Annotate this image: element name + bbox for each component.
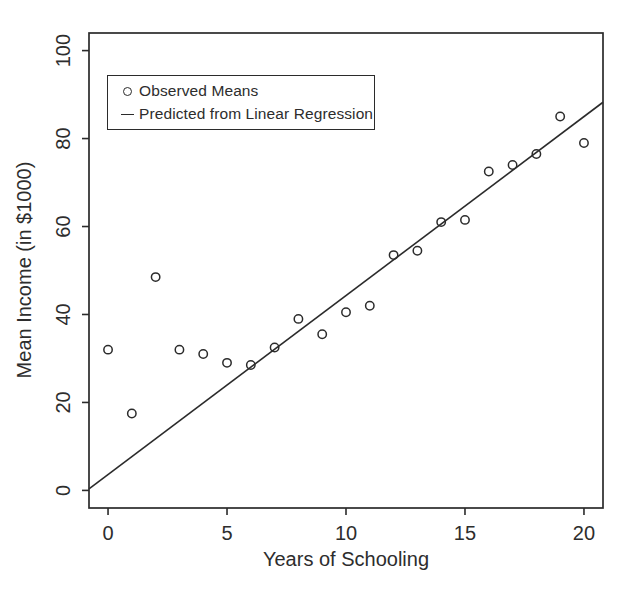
regression-line — [89, 102, 603, 489]
y-axis-title: Mean Income (in $1000) — [13, 162, 35, 379]
data-point — [223, 359, 231, 367]
data-point — [461, 216, 469, 224]
data-point — [151, 273, 159, 281]
data-point — [556, 112, 564, 120]
legend-marker-cell — [115, 87, 139, 96]
open-circle-marker-icon — [123, 87, 132, 96]
legend-marker-cell — [115, 114, 139, 115]
y-tick-label: 60 — [52, 215, 74, 237]
legend-box: Observed Means Predicted from Linear Reg… — [107, 75, 375, 130]
x-tick-label: 0 — [102, 522, 113, 544]
x-tick-label: 10 — [335, 522, 357, 544]
legend-item-predicted: Predicted from Linear Regression — [115, 104, 374, 125]
data-point — [342, 308, 350, 316]
x-tick-label: 15 — [454, 522, 476, 544]
x-axis-title: Years of Schooling — [263, 548, 429, 570]
legend-item-observed: Observed Means — [115, 81, 374, 102]
y-tick-label: 20 — [52, 391, 74, 413]
x-tick-label: 20 — [573, 522, 595, 544]
x-tick-label: 5 — [221, 522, 232, 544]
y-tick-label: 0 — [52, 485, 74, 496]
data-point — [175, 345, 183, 353]
y-tick-label: 100 — [52, 34, 74, 67]
data-point — [413, 247, 421, 255]
data-point — [294, 315, 302, 323]
data-point — [199, 350, 207, 358]
legend-label-observed: Observed Means — [139, 82, 258, 100]
data-point — [318, 330, 326, 338]
data-point — [485, 167, 493, 175]
scatterplot-figure: 05101520020406080100 Years of Schooling … — [0, 0, 626, 598]
data-point — [508, 161, 516, 169]
line-marker-icon — [121, 114, 134, 115]
data-point — [389, 251, 397, 259]
y-tick-label: 80 — [52, 127, 74, 149]
data-point — [104, 345, 112, 353]
legend-label-predicted: Predicted from Linear Regression — [139, 105, 373, 123]
data-point — [128, 409, 136, 417]
data-point — [366, 301, 374, 309]
data-point — [580, 139, 588, 147]
y-tick-label: 40 — [52, 303, 74, 325]
